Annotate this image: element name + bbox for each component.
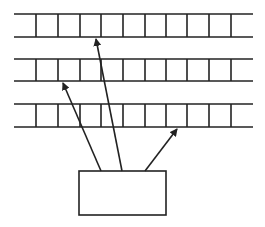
arrow-to-row-3 <box>145 129 177 171</box>
tape-row-2 <box>14 59 253 81</box>
tape-row-1 <box>14 14 253 37</box>
tape-rows <box>14 14 253 127</box>
source-box-rect <box>79 171 166 215</box>
tape-row-3 <box>14 104 253 127</box>
source-box <box>79 171 166 215</box>
diagram-canvas <box>0 0 265 227</box>
